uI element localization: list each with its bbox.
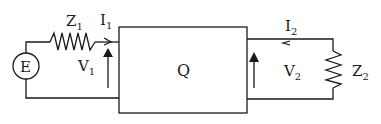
v1-arrow-head-icon (103, 48, 113, 57)
z2-resistor (326, 51, 341, 88)
z1-resistor (50, 33, 95, 50)
output-bottom-wire (247, 88, 333, 99)
v2-arrow-head-icon (249, 52, 259, 62)
v2-label: V2 (283, 62, 301, 82)
z1-label: Z1 (66, 12, 83, 32)
two-port-circuit-diagram: E Z1 I1 V1 Q I2 V2 Z2 (0, 0, 381, 124)
input-top-wire-left (26, 42, 50, 53)
i1-label: I1 (100, 11, 112, 31)
i2-label: I2 (285, 17, 297, 37)
i2-arrow-icon (283, 41, 290, 45)
source-label: E (20, 58, 31, 76)
input-bottom-wire (26, 79, 119, 98)
z2-label: Z2 (352, 62, 369, 82)
v1-label: V1 (77, 57, 95, 77)
network-label: Q (177, 61, 190, 80)
